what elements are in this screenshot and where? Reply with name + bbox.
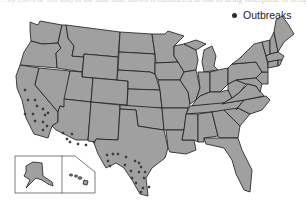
state-kansas (127, 89, 162, 108)
outbreak-point (85, 144, 87, 146)
outbreak-point (138, 171, 140, 173)
hawaii-inset-frame (62, 156, 95, 193)
outbreak-point (130, 170, 132, 172)
outbreak-point (142, 187, 144, 189)
outbreak-point (34, 99, 36, 101)
states (16, 16, 294, 196)
outbreak-point (144, 171, 146, 173)
outbreak-point (107, 160, 109, 162)
state-hawaii (69, 174, 88, 185)
state-north-dakota (119, 32, 155, 54)
state-new-mexico (88, 102, 120, 142)
outbreak-point (66, 138, 68, 140)
outbreak-point (131, 177, 133, 179)
state-washington (30, 21, 62, 44)
state-alaska (24, 162, 53, 188)
outbreak-point (27, 99, 29, 101)
outbreak-point (42, 121, 44, 123)
outbreak-point (36, 105, 38, 107)
state-ohio (210, 68, 228, 92)
outbreak-point (124, 164, 126, 166)
outbreak-point (42, 108, 44, 110)
outbreak-point (24, 113, 26, 115)
outbreak-point (148, 186, 150, 188)
outbreak-point (47, 112, 49, 114)
outbreak-point (24, 89, 26, 91)
state-florida (204, 138, 252, 192)
outbreak-point (93, 141, 95, 143)
inset (15, 156, 95, 193)
outbreak-point (46, 125, 48, 127)
outbreak-point (32, 113, 34, 115)
outbreak-point (140, 191, 142, 193)
state-wyoming (82, 54, 118, 80)
outbreak-point (77, 143, 79, 145)
outbreak-point (117, 153, 119, 155)
outbreak-point (138, 162, 140, 164)
outbreak-point (125, 156, 127, 158)
outbreak-point (135, 182, 137, 184)
outbreak-point (34, 120, 36, 122)
outbreak-point (44, 114, 46, 116)
outbreak-point (106, 154, 108, 156)
outbreak-point (62, 132, 64, 134)
outbreak-point (134, 160, 136, 162)
outbreak-point (143, 177, 145, 179)
outbreak-point (109, 165, 111, 167)
outbreak-point (112, 153, 114, 155)
state-montana (66, 25, 120, 57)
state-rhode-island (278, 60, 282, 66)
state-oregon (20, 41, 61, 68)
outbreak-point (71, 133, 73, 135)
us-map (0, 0, 306, 202)
outbreak-point (140, 166, 142, 168)
state-colorado (91, 78, 128, 105)
outbreak-point (69, 141, 71, 143)
state-maine (274, 16, 294, 52)
outbreak-point (42, 129, 44, 131)
